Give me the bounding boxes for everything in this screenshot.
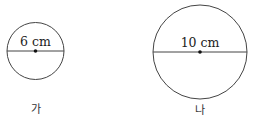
circle-ga-center-dot bbox=[34, 49, 38, 53]
circle-ga-name: 가 bbox=[31, 103, 41, 116]
circle-na-diameter-label: 10 cm bbox=[181, 35, 220, 50]
circle-na-center-dot bbox=[198, 50, 202, 54]
circle-ga-diameter-label: 6 cm bbox=[20, 34, 51, 49]
circle-diagram: 6 cm 가 10 cm 나 bbox=[0, 0, 255, 127]
circle-ga: 6 cm 가 bbox=[7, 23, 64, 117]
circle-na: 10 cm 나 bbox=[153, 5, 247, 117]
circle-na-name: 나 bbox=[195, 104, 205, 117]
